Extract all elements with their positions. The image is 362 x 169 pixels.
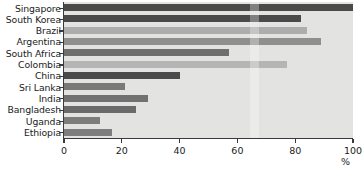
- x-axis-tick: [63, 139, 64, 143]
- y-axis-line: [63, 2, 64, 139]
- y-axis-label: India: [0, 93, 61, 104]
- x-axis-tick-label: 40: [174, 145, 186, 156]
- x-axis-tick: [352, 139, 353, 143]
- y-axis-tick: [59, 19, 64, 20]
- x-axis-tick: [295, 139, 296, 143]
- bar-south-korea: [64, 15, 301, 22]
- bar-ethiopia: [64, 129, 112, 136]
- bar-colombia: [64, 61, 287, 68]
- bar-sri-lanka: [64, 83, 125, 90]
- x-axis-tick-label: 20: [116, 145, 128, 156]
- bar-india: [64, 95, 148, 102]
- y-axis-label: South Africa: [0, 48, 61, 59]
- y-axis-tick: [59, 8, 64, 9]
- x-axis-tick: [179, 139, 180, 143]
- y-axis-label: South Korea: [0, 14, 61, 25]
- bar-bangladesh: [64, 106, 136, 113]
- y-axis-tick: [59, 110, 64, 111]
- bar-south-africa: [64, 49, 229, 56]
- y-axis-label-list: SingaporeSouth KoreaBrazilArgentinaSouth…: [0, 2, 61, 138]
- y-axis-tick: [59, 30, 64, 31]
- y-axis-label: Brazil: [0, 25, 61, 36]
- y-axis-tick: [59, 87, 64, 88]
- y-axis-tick: [59, 98, 64, 99]
- x-axis-tick-label: 80: [289, 145, 301, 156]
- y-axis-tick: [59, 121, 64, 122]
- y-axis-tick: [59, 76, 64, 77]
- x-axis-tick-label: 60: [231, 145, 243, 156]
- bar-argentina: [64, 38, 321, 45]
- y-axis-label: China: [0, 70, 61, 81]
- bar-singapore: [64, 4, 353, 11]
- y-axis-tick: [59, 64, 64, 65]
- x-axis-tick: [121, 139, 122, 143]
- y-axis-tick: [59, 53, 64, 54]
- y-axis-tick: [59, 42, 64, 43]
- x-axis-unit-label: %: [341, 156, 350, 167]
- y-axis-label: Argentina: [0, 36, 61, 47]
- x-axis-tick-label: 0: [61, 145, 67, 156]
- y-axis-label: Bangladesh: [0, 104, 61, 115]
- bar-brazil: [64, 27, 307, 34]
- bar-series: [64, 2, 353, 138]
- y-axis-label: Sri Lanka: [0, 82, 61, 93]
- y-axis-label: Uganda: [0, 116, 61, 127]
- x-axis-line: [63, 138, 353, 139]
- x-axis-tick: [237, 139, 238, 143]
- bar-uganda: [64, 117, 100, 124]
- bar-china: [64, 72, 180, 79]
- y-axis-label: Ethiopia: [0, 127, 61, 138]
- x-axis-tick-label: 100: [344, 145, 362, 156]
- y-axis-label: Singapore: [0, 3, 61, 14]
- plot-area: [64, 2, 353, 138]
- y-axis-tick: [59, 132, 64, 133]
- y-axis-label: Colombia: [0, 59, 61, 70]
